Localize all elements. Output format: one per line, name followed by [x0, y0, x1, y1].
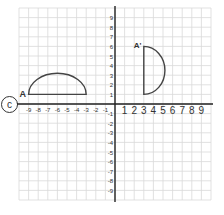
y-tick-label: 1	[110, 92, 114, 98]
x-tick-label: 4	[151, 105, 157, 116]
y-tick-label: -5	[108, 150, 114, 156]
x-tick-label: 7	[179, 105, 185, 116]
x-tick-label: 8	[189, 105, 195, 116]
y-tick-label: -4	[108, 140, 114, 146]
x-tick-label: -4	[74, 107, 80, 113]
y-tick-label: -3	[108, 130, 114, 136]
coordinate-plane: -9-8-7-6-5-4-3-2-1123456789987654321-1-2…	[0, 0, 224, 215]
x-tick-label: -2	[93, 107, 99, 113]
axes	[17, 6, 213, 202]
y-tick-label: 6	[110, 44, 114, 50]
x-tick-label: 2	[131, 105, 137, 116]
x-tick-label: -7	[45, 107, 51, 113]
x-tick-label: -6	[55, 107, 61, 113]
y-tick-label: 5	[110, 54, 114, 60]
y-tick-label: -8	[108, 178, 114, 184]
y-tick-label: 7	[110, 34, 114, 40]
x-tick-label: 6	[170, 105, 176, 116]
semicircle-shapes: AA'	[20, 41, 165, 99]
y-tick-label: 2	[110, 82, 114, 88]
x-tick-label: -5	[64, 107, 70, 113]
y-tick-label: -7	[108, 169, 114, 175]
y-tick-label: -9	[108, 188, 114, 194]
x-tick-label: 3	[141, 105, 147, 116]
y-tick-label: 9	[110, 15, 114, 21]
y-tick-label: 3	[110, 73, 114, 79]
y-tick-label: 8	[110, 25, 114, 31]
x-tick-label: 9	[199, 105, 205, 116]
x-tick-label: 5	[160, 105, 166, 116]
y-tick-label: -6	[108, 159, 114, 165]
x-tick-label: -3	[84, 107, 90, 113]
y-tick-label: 4	[110, 63, 114, 69]
x-tick-label: -9	[26, 107, 32, 113]
y-tick-label: -2	[108, 121, 114, 127]
x-tick-label: 1	[122, 105, 128, 116]
image-semicircle	[144, 46, 165, 94]
label-a-prime: A'	[134, 41, 142, 50]
y-tick-label: -1	[108, 111, 114, 117]
label-a: A	[20, 89, 27, 99]
x-tick-label: -8	[36, 107, 42, 113]
